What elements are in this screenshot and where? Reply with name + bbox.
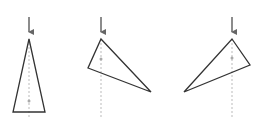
triangle-1	[13, 17, 45, 118]
triangle-3	[184, 17, 250, 118]
diagram-canvas	[0, 0, 264, 129]
triangle-2	[88, 17, 151, 118]
triangle-shape	[184, 39, 250, 92]
center-of-mass-dot	[100, 58, 103, 61]
center-of-mass-dot	[28, 100, 31, 103]
center-of-mass-dot	[231, 57, 234, 60]
triangle-shape	[88, 39, 151, 92]
